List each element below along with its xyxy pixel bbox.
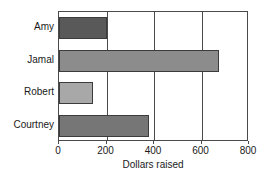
x-tick-label-400: 400 [145,145,162,157]
bar-amy [59,17,107,39]
y-axis-labels: AmyJamalRobertCourtney [0,11,54,141]
x-axis-title: Dollars raised [58,159,248,171]
x-axis-ticks: 0200400600800 [58,141,248,159]
x-tick-label-0: 0 [55,145,61,157]
bar-chart: AmyJamalRobertCourtney 0200400600800 Dol… [0,0,266,177]
bar-jamal [59,50,219,72]
x-tick-label-800: 800 [240,145,257,157]
x-tick-label-600: 600 [192,145,209,157]
y-axis-label-courtney: Courtney [0,119,54,131]
bar-track [59,115,249,137]
bar-track [59,82,249,104]
bar-courtney [59,115,149,137]
x-tick-mark [58,141,59,144]
x-tick-mark [153,141,154,144]
bar-track [59,17,249,39]
y-axis-label-amy: Amy [0,21,54,33]
x-tick-mark [248,141,249,144]
plot-area [58,11,248,141]
y-axis-label-robert: Robert [0,86,54,98]
x-tick-mark [106,141,107,144]
bar-track [59,50,249,72]
x-tick-label-200: 200 [97,145,114,157]
bar-robert [59,82,93,104]
x-tick-mark [201,141,202,144]
y-axis-label-jamal: Jamal [0,54,54,66]
